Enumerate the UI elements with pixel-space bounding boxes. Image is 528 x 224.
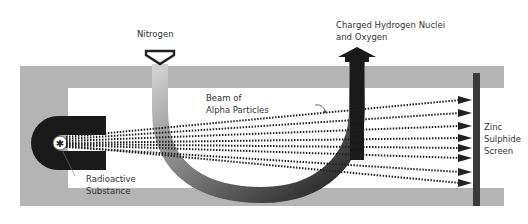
nitrogen-arrow-icon bbox=[146, 51, 174, 64]
products-arrow-icon bbox=[338, 47, 376, 62]
products-label-line2: and Oxygen bbox=[336, 31, 387, 43]
screen-label-line2: Sulphide bbox=[484, 133, 521, 145]
source-label-line2: Substance bbox=[86, 185, 130, 197]
source-label-line1: Radioactive bbox=[86, 173, 136, 185]
screen-label-line3: Screen bbox=[484, 145, 513, 157]
screen-label-line1: Zinc bbox=[484, 121, 502, 133]
svg-text:✱: ✱ bbox=[56, 138, 64, 149]
nitrogen-label: Nitrogen bbox=[137, 28, 174, 40]
beam-label-line2: Alpha Particles bbox=[206, 104, 269, 116]
beam-label-line1: Beam of bbox=[206, 92, 241, 104]
zinc-sulphide-screen bbox=[473, 73, 480, 206]
products-label-line1: Charged Hydrogen Nuclei bbox=[336, 19, 445, 31]
